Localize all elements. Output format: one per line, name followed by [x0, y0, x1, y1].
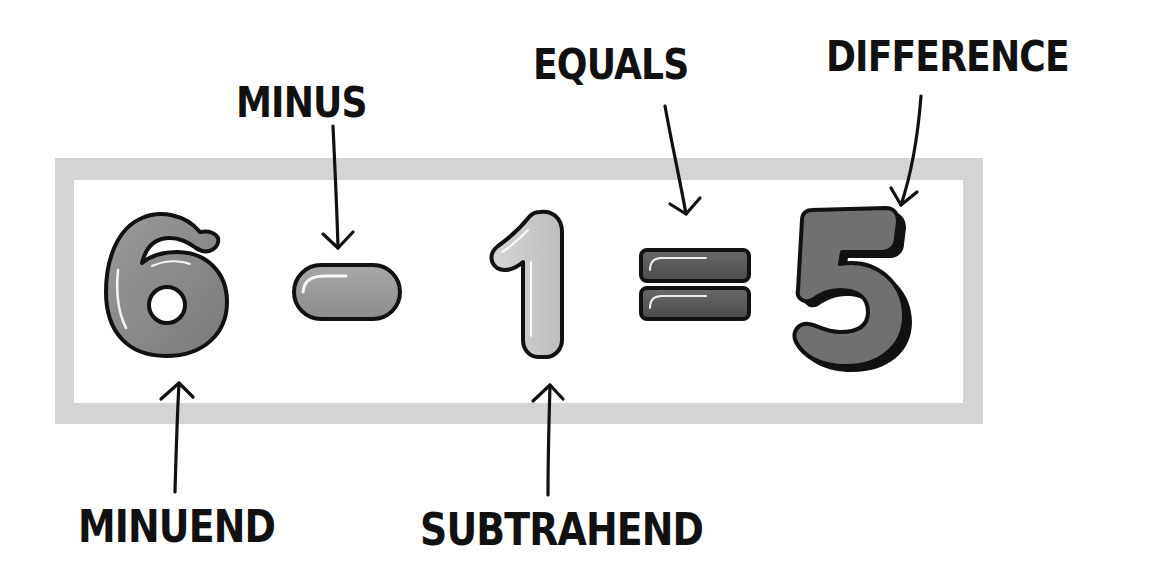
- difference-label: DIFFERENCE: [826, 36, 1069, 78]
- equals-label: EQUALS: [533, 44, 688, 86]
- subtrahend-label: SUBTRAHEND: [420, 508, 703, 552]
- minuend-digit-6: [106, 214, 227, 356]
- difference-digit-5: [794, 208, 912, 372]
- minus-label: MINUS: [236, 82, 367, 124]
- minus-sign: [294, 265, 400, 319]
- minuend-label: MINUEND: [78, 505, 275, 549]
